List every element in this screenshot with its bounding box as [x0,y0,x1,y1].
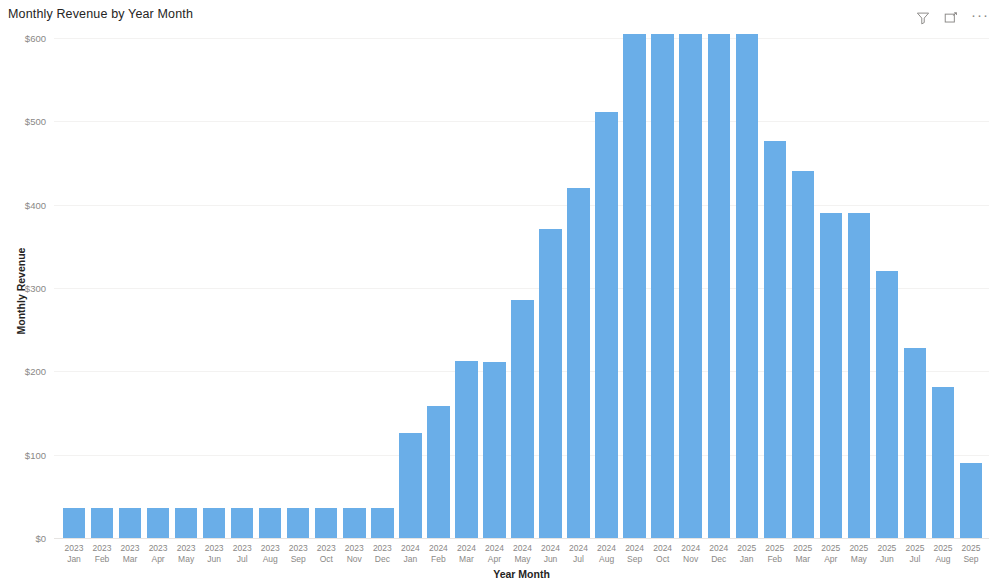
bar[interactable] [175,508,197,538]
x-axis-tick-month: Dec [368,554,396,565]
bar[interactable] [231,508,253,538]
x-axis-tick: 2023Oct [312,543,340,565]
x-axis-tick-month: Jan [396,554,424,565]
x-axis-tick: 2025May [845,543,873,565]
bar[interactable] [623,34,645,538]
x-axis-tick: 2023May [172,543,200,565]
bar[interactable] [679,34,701,538]
bar[interactable] [764,141,786,539]
x-axis-tick-month: Jun [873,554,901,565]
x-axis-tick-month: Jan [733,554,761,565]
x-axis-tick-year: 2024 [705,543,733,554]
bar[interactable] [567,188,589,538]
bar[interactable] [119,508,141,538]
x-axis-tick-year: 2024 [424,543,452,554]
x-axis-tick: 2025Apr [817,543,845,565]
x-axis-tick-month: May [172,554,200,565]
x-axis-tick-year: 2024 [480,543,508,554]
x-axis-tick-year: 2024 [593,543,621,554]
x-axis-tick: 2024Nov [677,543,705,565]
bar[interactable] [792,171,814,539]
x-axis-tick-month: Jan [60,554,88,565]
bar[interactable] [595,112,617,538]
bar[interactable] [203,508,225,538]
x-axis-tick-year: 2024 [508,543,536,554]
x-axis-tick-year: 2023 [256,543,284,554]
x-axis-tick-year: 2025 [957,543,985,554]
bar[interactable] [455,361,477,538]
x-axis-tick-year: 2024 [649,543,677,554]
x-axis-tick-year: 2025 [817,543,845,554]
x-axis-tick: 2023Sep [284,543,312,565]
x-axis-tick-year: 2024 [621,543,649,554]
bar[interactable] [736,34,758,538]
x-axis-tick-year: 2025 [845,543,873,554]
x-axis-tick-month: Dec [705,554,733,565]
bar[interactable] [91,508,113,538]
x-axis-tick-year: 2024 [396,543,424,554]
x-axis-tick-month: Aug [256,554,284,565]
bar[interactable] [259,508,281,538]
x-axis-tick-month: Feb [424,554,452,565]
bar[interactable] [848,213,870,538]
x-axis-tick-year: 2024 [452,543,480,554]
x-axis-tick-year: 2025 [761,543,789,554]
bar[interactable] [343,508,365,538]
x-axis-tick-month: Sep [957,554,985,565]
bar[interactable] [147,508,169,538]
bar[interactable] [399,433,421,538]
x-axis-tick-month: Apr [817,554,845,565]
bars-layer [54,0,989,582]
y-axis-tick: $300 [0,283,46,294]
x-axis-tick-month: Aug [593,554,621,565]
bar[interactable] [932,387,954,538]
y-axis-tick: $0 [0,533,46,544]
x-axis-tick-year: 2023 [144,543,172,554]
x-axis-tick-month: Jun [537,554,565,565]
x-axis-tick-year: 2025 [789,543,817,554]
x-axis-tick-month: Jul [228,554,256,565]
x-axis-tick-year: 2023 [116,543,144,554]
x-axis-tick-year: 2025 [873,543,901,554]
x-axis-tick-year: 2023 [368,543,396,554]
x-axis-tick-month: Mar [452,554,480,565]
bar[interactable] [820,213,842,538]
bar[interactable] [876,271,898,539]
x-axis-tick-month: Oct [649,554,677,565]
bar[interactable] [511,300,533,538]
x-axis-tick-month: Apr [144,554,172,565]
x-axis-tick: 2025Feb [761,543,789,565]
y-axis-tick: $600 [0,33,46,44]
bar[interactable] [539,229,561,538]
x-axis-tick: 2024Oct [649,543,677,565]
bar[interactable] [904,348,926,538]
x-axis-tick: 2023Mar [116,543,144,565]
x-axis-tick: 2024Apr [480,543,508,565]
bar[interactable] [371,508,393,538]
x-axis-tick: 2023Jun [200,543,228,565]
bar[interactable] [960,463,982,538]
x-axis-tick: 2024Mar [452,543,480,565]
bar[interactable] [287,508,309,538]
x-axis-tick-month: Mar [116,554,144,565]
bar[interactable] [708,34,730,538]
bar[interactable] [427,406,449,539]
bar[interactable] [63,508,85,538]
x-axis-tick-year: 2023 [88,543,116,554]
bar[interactable] [315,508,337,538]
x-axis-tick-year: 2023 [172,543,200,554]
x-axis-tick: 2023Apr [144,543,172,565]
x-axis-tick-year: 2025 [733,543,761,554]
bar[interactable] [651,34,673,538]
x-axis-tick-month: Feb [88,554,116,565]
x-axis-tick: 2023Aug [256,543,284,565]
x-axis-tick-year: 2025 [929,543,957,554]
x-axis-tick-month: Sep [284,554,312,565]
x-axis-tick: 2024Aug [593,543,621,565]
x-axis-tick-year: 2023 [60,543,88,554]
bar[interactable] [483,362,505,538]
x-axis-tick-month: May [845,554,873,565]
x-axis-tick: 2025Jun [873,543,901,565]
x-axis-tick: 2023Feb [88,543,116,565]
x-axis-tick-year: 2023 [340,543,368,554]
